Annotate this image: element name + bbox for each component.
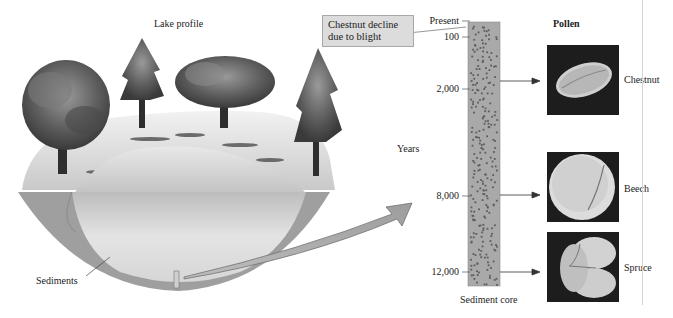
pollen-label-beech: Beech — [624, 183, 649, 194]
tick-label-2000: 2,000 — [399, 83, 459, 94]
core-sample-location — [174, 271, 179, 288]
tick-label-8000: 8,000 — [399, 190, 459, 201]
pollen-spruce-image — [547, 232, 619, 302]
lake-illustration — [0, 0, 673, 318]
pollen-chestnut-image — [547, 45, 619, 115]
pollen-beech-image — [547, 152, 619, 222]
pollen-pointer-arrows — [500, 78, 540, 275]
sediments-label: Sediments — [36, 275, 78, 286]
callout-line-2: due to blight — [328, 31, 408, 43]
tick-label-100: 100 — [399, 31, 459, 42]
lake-profile-title: Lake profile — [154, 18, 203, 29]
tick-label-present: Present — [399, 15, 459, 26]
tick-label-12000: 12,000 — [399, 266, 459, 277]
pollen-title: Pollen — [553, 18, 580, 29]
years-axis-title: Years — [397, 143, 419, 154]
pollen-label-spruce: Spruce — [624, 262, 652, 273]
page-margin-rule — [642, 0, 643, 305]
callout-line-1: Chestnut decline — [328, 19, 408, 31]
sediment-core-column — [468, 22, 500, 286]
sediment-core-caption: Sediment core — [460, 294, 517, 305]
